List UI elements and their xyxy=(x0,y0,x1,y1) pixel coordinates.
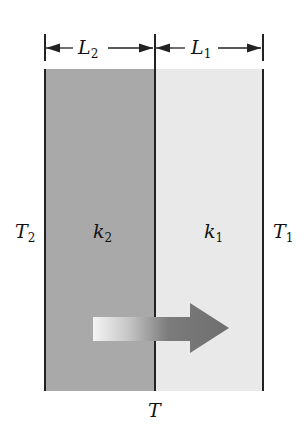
subscript: 2 xyxy=(28,231,36,245)
subscript: 1 xyxy=(286,231,294,245)
subscript: 2 xyxy=(91,47,99,61)
symbol: T xyxy=(273,220,286,242)
subscript: 1 xyxy=(216,231,224,245)
dimension-arrows xyxy=(0,0,305,444)
symbol: T xyxy=(148,399,161,421)
dimension-label-l2: L2 xyxy=(78,38,98,60)
temperature-label-interface: T xyxy=(148,401,161,420)
subscript: 2 xyxy=(105,231,113,245)
dimension-label-l1: L1 xyxy=(191,38,211,60)
symbol: L xyxy=(78,36,91,58)
heat-flow-arrow-icon xyxy=(93,303,229,353)
conductivity-label-k2: k2 xyxy=(93,222,112,244)
symbol: k xyxy=(93,220,105,242)
conductivity-label-k1: k1 xyxy=(204,222,223,244)
symbol: T xyxy=(15,220,28,242)
symbol: L xyxy=(191,36,204,58)
symbol: k xyxy=(204,220,216,242)
subscript: 1 xyxy=(204,47,212,61)
temperature-label-t1: T1 xyxy=(273,222,293,244)
temperature-label-t2: T2 xyxy=(15,222,35,244)
